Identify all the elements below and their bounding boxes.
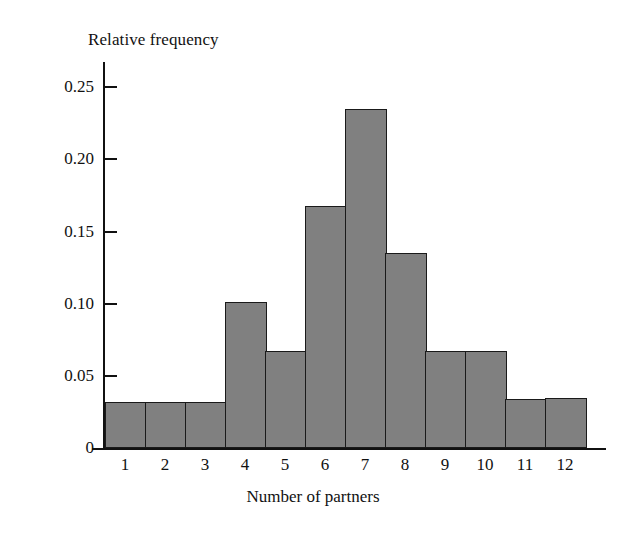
histogram-bar bbox=[105, 402, 147, 448]
x-axis-tick-label: 7 bbox=[343, 455, 387, 475]
histogram-bar bbox=[185, 402, 227, 448]
histogram-bar bbox=[305, 206, 347, 448]
x-axis-tick-label: 8 bbox=[383, 455, 427, 475]
histogram-bar bbox=[425, 351, 467, 448]
x-axis-tick-label: 11 bbox=[503, 455, 547, 475]
histogram-bar bbox=[465, 351, 507, 448]
x-axis-tick-label: 1 bbox=[103, 455, 147, 475]
y-axis-title: Relative frequency bbox=[88, 30, 219, 50]
histogram-bar bbox=[505, 399, 547, 448]
y-axis-tick-label: 0.10 bbox=[34, 294, 94, 314]
y-axis-tick-label: 0 bbox=[34, 438, 94, 458]
y-axis-tick-label: 0.25 bbox=[34, 77, 94, 97]
histogram-bar bbox=[145, 402, 187, 448]
plot-area bbox=[105, 62, 585, 448]
y-axis-tick-label: 0.05 bbox=[34, 366, 94, 386]
histogram-bar bbox=[545, 398, 587, 449]
histogram-bar bbox=[225, 302, 267, 448]
x-axis-tick-label: 3 bbox=[183, 455, 227, 475]
histogram-bar bbox=[265, 351, 307, 448]
y-axis-tick-label: 0.20 bbox=[34, 149, 94, 169]
histogram-figure: Relative frequency 00.050.100.150.200.25… bbox=[0, 0, 626, 537]
x-axis-line bbox=[92, 448, 606, 450]
x-axis-title: Number of partners bbox=[0, 487, 626, 507]
x-axis-tick-label: 5 bbox=[263, 455, 307, 475]
x-axis-tick-label: 6 bbox=[303, 455, 347, 475]
y-axis-tick-label: 0.15 bbox=[34, 222, 94, 242]
histogram-bar bbox=[345, 109, 387, 448]
x-axis-tick-label: 10 bbox=[463, 455, 507, 475]
x-axis-tick-label: 2 bbox=[143, 455, 187, 475]
x-axis-tick-label: 9 bbox=[423, 455, 467, 475]
x-axis-tick-label: 12 bbox=[543, 455, 587, 475]
x-axis-tick-label: 4 bbox=[223, 455, 267, 475]
histogram-bar bbox=[385, 253, 427, 448]
